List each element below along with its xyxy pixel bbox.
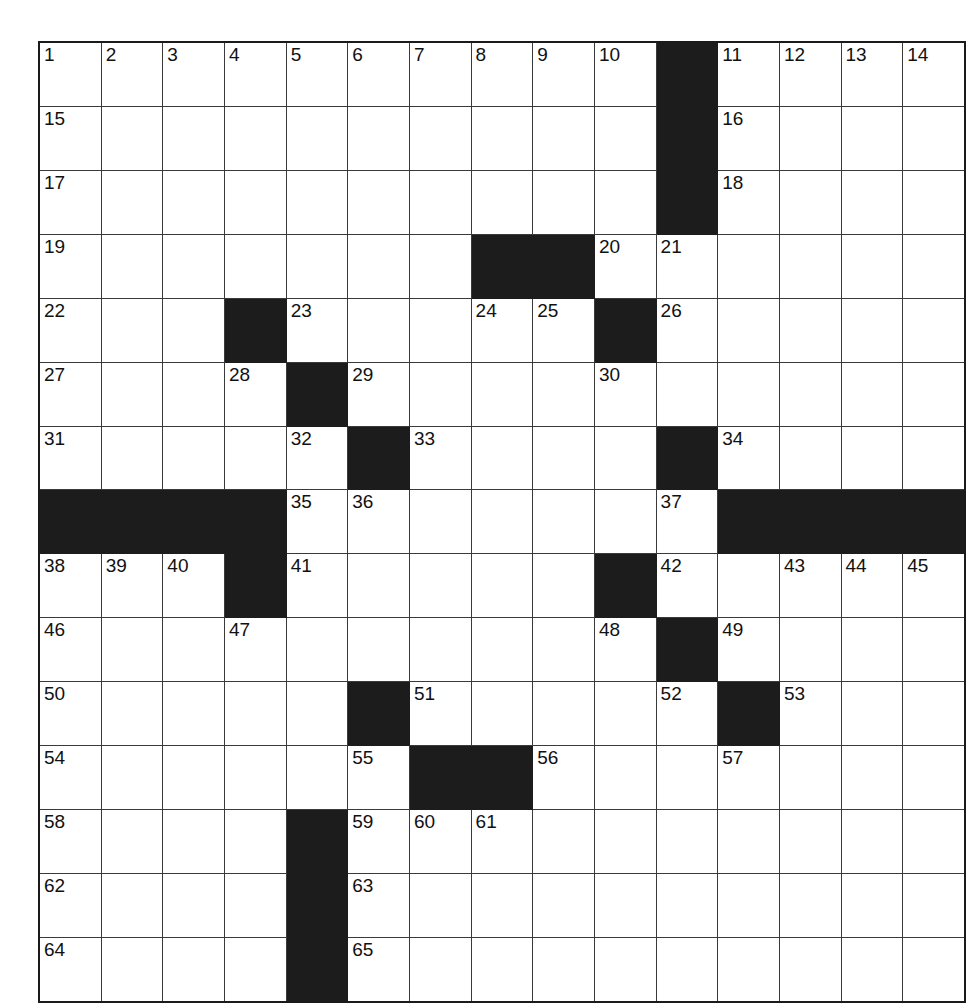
crossword-cell[interactable] (841, 746, 903, 810)
crossword-cell[interactable] (903, 810, 965, 874)
crossword-cell[interactable] (533, 618, 595, 682)
crossword-cell[interactable]: 31 (39, 426, 101, 490)
crossword-cell[interactable]: 4 (224, 42, 286, 106)
crossword-cell[interactable] (594, 810, 656, 874)
crossword-cell[interactable] (903, 106, 965, 170)
crossword-cell[interactable] (533, 554, 595, 618)
crossword-cell[interactable]: 28 (224, 362, 286, 426)
crossword-cell[interactable]: 65 (348, 937, 410, 1001)
crossword-cell[interactable]: 11 (718, 42, 780, 106)
crossword-cell[interactable]: 33 (409, 426, 471, 490)
crossword-cell[interactable]: 49 (718, 618, 780, 682)
crossword-cell[interactable] (101, 810, 163, 874)
crossword-cell[interactable] (163, 234, 225, 298)
crossword-cell[interactable] (903, 937, 965, 1001)
crossword-cell[interactable] (471, 170, 533, 234)
crossword-cell[interactable] (101, 234, 163, 298)
crossword-cell[interactable]: 9 (533, 42, 595, 106)
crossword-cell[interactable] (533, 937, 595, 1001)
crossword-cell[interactable]: 13 (841, 42, 903, 106)
crossword-cell[interactable] (533, 873, 595, 937)
crossword-cell[interactable]: 37 (656, 490, 718, 554)
crossword-cell[interactable]: 53 (779, 682, 841, 746)
crossword-cell[interactable]: 21 (656, 234, 718, 298)
crossword-cell[interactable] (903, 362, 965, 426)
crossword-cell[interactable] (471, 490, 533, 554)
crossword-cell[interactable] (101, 298, 163, 362)
crossword-cell[interactable]: 5 (286, 42, 348, 106)
crossword-cell[interactable]: 47 (224, 618, 286, 682)
crossword-cell[interactable]: 27 (39, 362, 101, 426)
crossword-cell[interactable]: 40 (163, 554, 225, 618)
crossword-cell[interactable] (903, 746, 965, 810)
crossword-cell[interactable] (533, 106, 595, 170)
crossword-cell[interactable] (594, 170, 656, 234)
crossword-cell[interactable] (656, 746, 718, 810)
crossword-cell[interactable] (286, 106, 348, 170)
crossword-cell[interactable] (718, 234, 780, 298)
crossword-cell[interactable] (471, 362, 533, 426)
crossword-cell[interactable]: 50 (39, 682, 101, 746)
crossword-cell[interactable] (841, 234, 903, 298)
crossword-cell[interactable] (286, 618, 348, 682)
crossword-cell[interactable] (409, 490, 471, 554)
crossword-cell[interactable]: 10 (594, 42, 656, 106)
crossword-cell[interactable]: 51 (409, 682, 471, 746)
crossword-cell[interactable]: 48 (594, 618, 656, 682)
crossword-cell[interactable] (101, 362, 163, 426)
crossword-cell[interactable]: 38 (39, 554, 101, 618)
crossword-cell[interactable] (779, 618, 841, 682)
crossword-cell[interactable] (348, 298, 410, 362)
crossword-cell[interactable]: 64 (39, 937, 101, 1001)
crossword-cell[interactable] (409, 873, 471, 937)
crossword-cell[interactable] (718, 362, 780, 426)
crossword-cell[interactable]: 44 (841, 554, 903, 618)
crossword-cell[interactable] (471, 682, 533, 746)
crossword-cell[interactable] (163, 426, 225, 490)
crossword-cell[interactable] (903, 298, 965, 362)
crossword-cell[interactable]: 63 (348, 873, 410, 937)
crossword-cell[interactable] (224, 106, 286, 170)
crossword-cell[interactable] (594, 937, 656, 1001)
crossword-cell[interactable]: 17 (39, 170, 101, 234)
crossword-cell[interactable]: 22 (39, 298, 101, 362)
crossword-cell[interactable] (903, 682, 965, 746)
crossword-cell[interactable] (779, 426, 841, 490)
crossword-cell[interactable]: 42 (656, 554, 718, 618)
crossword-cell[interactable] (286, 170, 348, 234)
crossword-cell[interactable] (409, 362, 471, 426)
crossword-cell[interactable] (163, 746, 225, 810)
crossword-cell[interactable] (779, 362, 841, 426)
crossword-cell[interactable] (779, 937, 841, 1001)
crossword-cell[interactable] (101, 106, 163, 170)
crossword-cell[interactable] (163, 298, 225, 362)
crossword-cell[interactable] (409, 170, 471, 234)
crossword-cell[interactable] (409, 234, 471, 298)
crossword-cell[interactable] (533, 170, 595, 234)
crossword-cell[interactable] (101, 873, 163, 937)
crossword-cell[interactable] (224, 170, 286, 234)
crossword-cell[interactable]: 58 (39, 810, 101, 874)
crossword-cell[interactable] (533, 810, 595, 874)
crossword-cell[interactable] (718, 298, 780, 362)
crossword-cell[interactable]: 54 (39, 746, 101, 810)
crossword-cell[interactable] (471, 937, 533, 1001)
crossword-cell[interactable] (841, 298, 903, 362)
crossword-cell[interactable]: 61 (471, 810, 533, 874)
crossword-cell[interactable]: 32 (286, 426, 348, 490)
crossword-cell[interactable] (348, 170, 410, 234)
crossword-cell[interactable] (903, 170, 965, 234)
crossword-cell[interactable] (533, 490, 595, 554)
crossword-cell[interactable]: 3 (163, 42, 225, 106)
crossword-cell[interactable] (841, 937, 903, 1001)
crossword-cell[interactable] (903, 234, 965, 298)
crossword-cell[interactable] (163, 873, 225, 937)
crossword-cell[interactable] (471, 106, 533, 170)
crossword-cell[interactable] (286, 682, 348, 746)
crossword-cell[interactable]: 35 (286, 490, 348, 554)
crossword-cell[interactable] (224, 873, 286, 937)
crossword-cell[interactable] (779, 234, 841, 298)
crossword-cell[interactable] (594, 746, 656, 810)
crossword-cell[interactable]: 41 (286, 554, 348, 618)
crossword-cell[interactable] (286, 746, 348, 810)
